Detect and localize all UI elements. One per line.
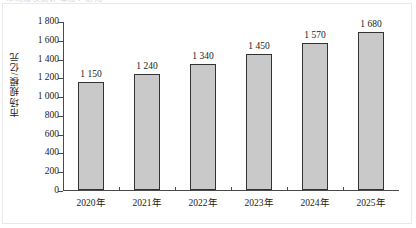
x-axis-category-label: 2023年 xyxy=(245,197,274,210)
x-axis-category-label: 2025年 xyxy=(357,197,386,210)
bar[interactable]: 1 450 xyxy=(246,54,272,190)
plot-area: 02004006008001 0001 2001 4001 6001 800 1… xyxy=(63,22,399,191)
y-axis-tick-label: 1 200 xyxy=(38,71,59,84)
bar[interactable]: 1 680 xyxy=(358,32,384,190)
bar[interactable]: 1 150 xyxy=(78,82,104,190)
x-axis-category-label: 2024年 xyxy=(301,197,330,210)
y-axis-tick-label: 1 800 xyxy=(38,15,59,28)
y-axis-line xyxy=(63,22,64,191)
bar[interactable]: 1 340 xyxy=(190,64,216,190)
x-axis-tick-mark xyxy=(119,187,120,191)
bar-value-label: 1 240 xyxy=(136,60,157,72)
y-axis-tick-label: 400 xyxy=(45,146,59,159)
bar-value-label: 1 450 xyxy=(248,40,269,52)
x-axis-category-label: 2022年 xyxy=(189,197,218,210)
bar-chart-figure: 市场规模统计 单位：亿元 市场规模/亿元 02004006008001 0001… xyxy=(0,0,416,228)
x-axis-category-label: 2020年 xyxy=(77,197,106,210)
y-axis-tick-label: 0 xyxy=(54,184,59,197)
y-axis-tick-label: 800 xyxy=(45,109,59,122)
x-axis-tick-mark xyxy=(287,187,288,191)
y-axis-tick-label: 1 600 xyxy=(38,34,59,47)
bar-value-label: 1 150 xyxy=(80,68,101,80)
x-axis-tick-mark xyxy=(343,187,344,191)
y-axis-tick-label: 1 000 xyxy=(38,90,59,103)
y-axis-title-text: 市场规模/亿元 xyxy=(8,51,22,117)
y-axis-title: 市场规模/亿元 xyxy=(8,0,22,169)
bar-value-label: 1 680 xyxy=(360,18,381,30)
bar[interactable]: 1 570 xyxy=(302,43,328,190)
x-axis-tick-mark xyxy=(231,187,232,191)
y-axis-tick-label: 200 xyxy=(45,165,59,178)
y-axis-tick-label: 600 xyxy=(45,128,59,141)
bar-value-label: 1 340 xyxy=(192,50,213,62)
x-axis-tick-mark xyxy=(175,187,176,191)
x-axis-category-label: 2021年 xyxy=(133,197,162,210)
clipped-figure-title: 市场规模统计 单位：亿元 xyxy=(6,0,196,3)
bar[interactable]: 1 240 xyxy=(134,74,160,190)
y-axis-tick-label: 1 400 xyxy=(38,53,59,66)
bar-value-label: 1 570 xyxy=(304,29,325,41)
